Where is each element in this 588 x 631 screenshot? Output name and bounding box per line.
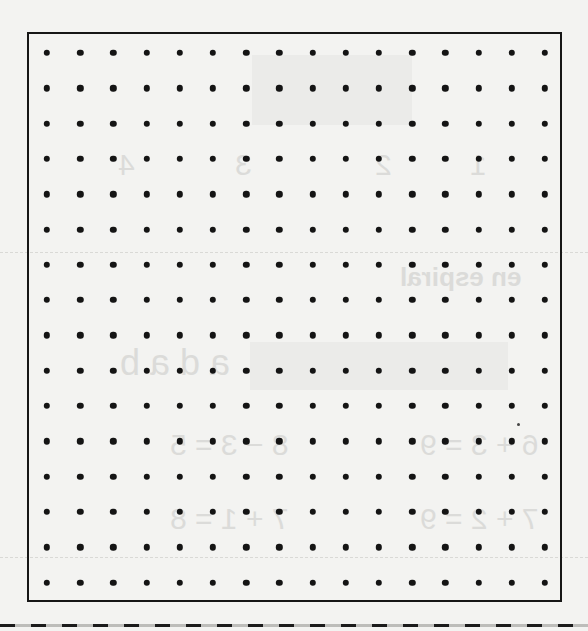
- grid-dot: [276, 85, 282, 91]
- grid-dot: [376, 297, 382, 303]
- worksheet-page: 1 2 3 4 en espiral a d a b 6 + 3 = 9 8 −…: [0, 0, 588, 631]
- grid-dot: [177, 403, 183, 409]
- grid-dot: [442, 332, 448, 338]
- grid-dot: [309, 156, 315, 162]
- grid-dot: [409, 579, 415, 585]
- grid-dot: [376, 120, 382, 126]
- grid-dot: [44, 438, 50, 444]
- grid-dot: [210, 403, 216, 409]
- grid-dot: [77, 509, 83, 515]
- grid-dot: [44, 509, 50, 515]
- grid-dot: [343, 332, 349, 338]
- grid-dot: [309, 473, 315, 479]
- grid-dot: [177, 473, 183, 479]
- grid-dot: [542, 191, 548, 197]
- grid-dot: [542, 332, 548, 338]
- grid-dot: [376, 85, 382, 91]
- grid-dot: [442, 509, 448, 515]
- grid-dot: [243, 297, 249, 303]
- grid-dot: [442, 191, 448, 197]
- grid-dot: [542, 367, 548, 373]
- grid-dot: [409, 50, 415, 56]
- grid-dot: [475, 156, 481, 162]
- grid-dot: [44, 579, 50, 585]
- grid-dot: [409, 332, 415, 338]
- grid-dot: [77, 579, 83, 585]
- grid-dot: [276, 50, 282, 56]
- grid-dot: [77, 156, 83, 162]
- grid-dot: [542, 262, 548, 268]
- grid-dot: [509, 191, 515, 197]
- grid-dot: [210, 473, 216, 479]
- grid-dot: [309, 262, 315, 268]
- grid-dot: [44, 156, 50, 162]
- grid-dot: [475, 367, 481, 373]
- grid-dot: [542, 544, 548, 550]
- grid-dot: [243, 50, 249, 56]
- grid-dot: [442, 226, 448, 232]
- grid-dot: [509, 438, 515, 444]
- grid-dot: [110, 473, 116, 479]
- grid-dot: [210, 156, 216, 162]
- grid-dot: [243, 156, 249, 162]
- grid-dot: [442, 544, 448, 550]
- grid-dot: [509, 509, 515, 515]
- grid-dot: [143, 191, 149, 197]
- grid-dot: [243, 120, 249, 126]
- grid-dot: [509, 156, 515, 162]
- grid-dot: [177, 438, 183, 444]
- grid-dot: [177, 156, 183, 162]
- grid-dot: [210, 226, 216, 232]
- grid-dot: [77, 473, 83, 479]
- grid-dot: [409, 473, 415, 479]
- grid-dot: [210, 332, 216, 338]
- grid-dot: [309, 332, 315, 338]
- grid-dot: [442, 579, 448, 585]
- grid-dot: [542, 226, 548, 232]
- grid-dot: [177, 191, 183, 197]
- grid-dot: [276, 120, 282, 126]
- grid-dot: [509, 544, 515, 550]
- grid-dot: [143, 544, 149, 550]
- grid-dot: [409, 297, 415, 303]
- grid-dot: [210, 85, 216, 91]
- grid-dot: [210, 191, 216, 197]
- grid-dot: [44, 367, 50, 373]
- grid-dot: [110, 156, 116, 162]
- grid-dot: [210, 509, 216, 515]
- grid-dot: [110, 403, 116, 409]
- grid-dot: [276, 403, 282, 409]
- grid-dot: [475, 50, 481, 56]
- grid-dot: [309, 297, 315, 303]
- grid-dot: [210, 120, 216, 126]
- grid-dot: [509, 85, 515, 91]
- grid-dot: [77, 367, 83, 373]
- grid-dot: [110, 85, 116, 91]
- grid-dot: [177, 544, 183, 550]
- grid-dot: [143, 85, 149, 91]
- grid-dot: [475, 297, 481, 303]
- grid-dot: [110, 297, 116, 303]
- grid-dot: [343, 544, 349, 550]
- grid-dot: [77, 50, 83, 56]
- grid-dot: [542, 403, 548, 409]
- grid-dot: [143, 367, 149, 373]
- grid-dot: [243, 332, 249, 338]
- grid-dot: [276, 191, 282, 197]
- grid-dot: [77, 226, 83, 232]
- grid-dot: [343, 191, 349, 197]
- grid-dot: [177, 579, 183, 585]
- grid-dot: [210, 367, 216, 373]
- grid-dot: [243, 262, 249, 268]
- grid-dot: [409, 403, 415, 409]
- grid-dot: [343, 297, 349, 303]
- grid-dot: [442, 120, 448, 126]
- grid-dot: [276, 438, 282, 444]
- grid-dot: [143, 332, 149, 338]
- grid-dot: [77, 262, 83, 268]
- grid-dot: [509, 367, 515, 373]
- grid-dot: [44, 332, 50, 338]
- grid-dot: [442, 438, 448, 444]
- grid-dot: [276, 226, 282, 232]
- grid-dot: [376, 403, 382, 409]
